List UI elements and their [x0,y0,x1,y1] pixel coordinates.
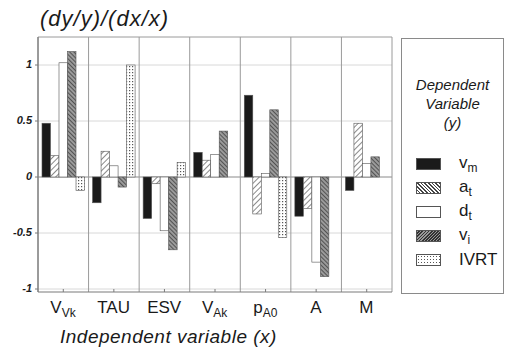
legend-swatch [416,182,441,194]
x-axis-label: Independent variable (x) [60,326,277,348]
legend-title: Dependent Variable (y) [402,75,503,132]
bar-d_t-0 [59,63,68,177]
legend-title-line1: Dependent [402,75,503,94]
legend-item-a-t: at [402,176,503,200]
bar-v_m-0 [42,123,51,177]
bar-IVRT-1 [127,65,136,177]
x-tick-label: pA0 [240,298,290,320]
legend-title-line3: (y) [402,113,503,132]
bar-a_t-6 [354,123,363,177]
bar-v_m-2 [143,177,152,218]
bar-d_t-1 [110,166,119,177]
bar-v_i-2 [169,177,178,250]
bar-v_i-5 [320,177,329,277]
bar-d_t-6 [362,164,371,177]
bar-IVRT-2 [177,162,186,177]
bar-a_t-1 [101,151,110,177]
legend-swatch [416,158,441,170]
x-tick-label: VVk [38,298,88,320]
legend-item-ivrt: IVRT [402,248,503,272]
x-tick-label: ESV [139,298,189,318]
legend-item-v-i: vi [402,224,503,248]
legend-label: vi [459,225,470,247]
legend: Dependent Variable (y) vmatdtviIVRT [401,38,504,294]
bar-v_i-0 [68,52,77,177]
bar-a_t-4 [253,177,261,214]
legend-swatch [416,254,441,266]
bar-d_t-4 [261,174,270,177]
y-tick-label: -0.5 [2,226,32,238]
legend-swatch [416,230,441,242]
bar-v_m-1 [93,177,102,203]
bar-v_i-4 [270,110,279,177]
bar-d_t-2 [160,177,169,231]
x-tick-label: VAk [190,298,240,320]
y-tick-label: 0.5 [2,114,32,126]
bar-d_t-3 [211,155,220,177]
bar-a_t-2 [152,177,161,184]
legend-items: vmatdtviIVRT [402,152,503,272]
bar-v_m-6 [345,177,354,190]
legend-label: dt [459,201,472,223]
bar-a_t-0 [51,156,60,177]
chart-title: (dy/y)/(dx/x) [40,6,169,32]
bar-v_m-3 [194,152,203,177]
y-tick-label: -1 [2,282,32,294]
x-tick-label: M [341,298,391,318]
legend-item-v-m: vm [402,152,503,176]
bar-v_m-4 [244,95,253,177]
bar-a_t-5 [303,177,312,208]
x-tick-label: TAU [89,298,139,318]
legend-title-line2: Variable [402,94,503,113]
legend-label: at [459,177,472,199]
bar-IVRT-4 [278,177,287,237]
bar-v_i-1 [118,177,127,187]
bar-v_i-3 [219,131,228,177]
bar-v_i-6 [371,157,380,177]
bar-v_m-5 [295,177,304,216]
y-tick-label: 1 [2,58,32,70]
bars [42,52,379,277]
legend-item-d-t: dt [402,200,503,224]
legend-label: vm [459,153,478,175]
y-tick-label: 0 [2,170,32,182]
bar-d_t-5 [312,177,321,262]
x-tick-label: A [291,298,341,318]
bar-IVRT-0 [76,177,85,190]
legend-label: IVRT [459,250,497,270]
legend-swatch [416,206,441,218]
bar-a_t-3 [202,160,211,177]
